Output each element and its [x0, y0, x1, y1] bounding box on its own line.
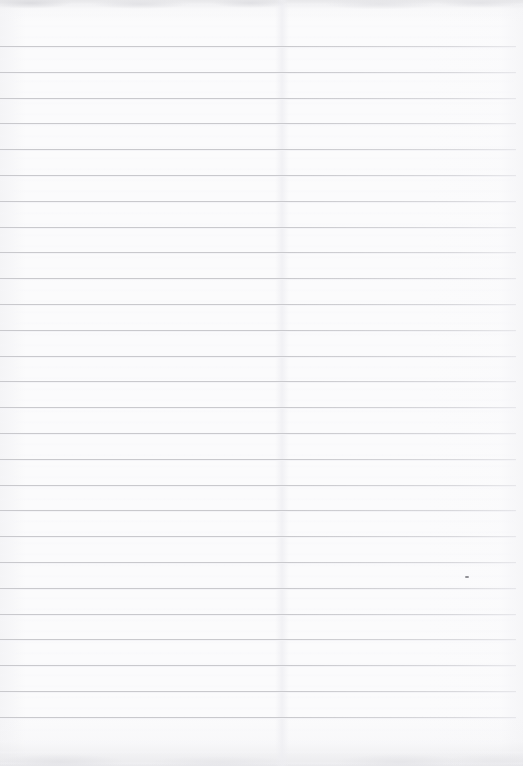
paper-surface	[0, 0, 523, 766]
scanned-page	[0, 0, 523, 766]
scan-speck-artifact	[465, 576, 469, 578]
